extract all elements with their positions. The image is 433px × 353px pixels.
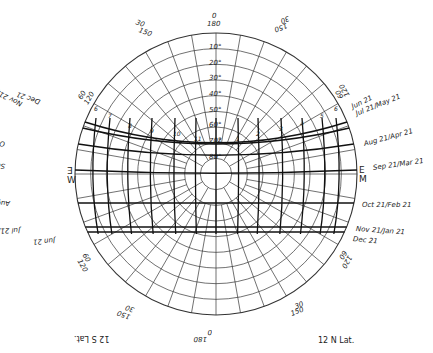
hour-label: 5 xyxy=(320,112,324,119)
altitude-label: 40° xyxy=(209,90,221,98)
hour-line xyxy=(93,118,98,234)
east-sub-label: M xyxy=(359,174,367,184)
hour-label: 1 xyxy=(236,135,240,142)
south-latitude-title: 12 S Lat. xyxy=(74,334,109,343)
hour-line xyxy=(150,118,153,234)
west-sub-label: E xyxy=(67,165,73,175)
hour-label: 2 xyxy=(256,130,260,137)
hour-label: 8 xyxy=(128,122,132,129)
hour-line xyxy=(334,118,339,234)
azimuth-line xyxy=(230,182,339,245)
hour-label: 4 xyxy=(300,120,304,127)
azimuth-line xyxy=(192,35,211,143)
azimuth-bottom-b: 180 xyxy=(194,335,207,343)
hour-label: 6 xyxy=(334,105,338,112)
sun-path-diagram xyxy=(0,0,433,353)
hour-line xyxy=(300,118,304,234)
hour-label: 6 xyxy=(94,105,98,112)
azimuth-line xyxy=(146,188,209,297)
altitude-label: 50° xyxy=(209,106,221,114)
azimuth-bottom-a: 0 xyxy=(208,328,212,336)
azimuth-line xyxy=(192,205,211,313)
azimuth-line xyxy=(224,188,287,297)
date-label-s-aug-apr: Aug 21/Apr 21 xyxy=(0,199,10,207)
hour-label: 3 xyxy=(279,125,283,132)
date-label-oct-feb: Oct 21/Feb 21 xyxy=(362,201,412,209)
azimuth-line xyxy=(94,182,203,245)
altitude-label: 30° xyxy=(209,74,221,82)
hour-line xyxy=(128,118,132,234)
hour-label: 11 xyxy=(194,135,202,142)
hour-label: 10 xyxy=(173,130,181,137)
hour-line xyxy=(280,118,283,234)
altitude-label: 60° xyxy=(209,121,221,129)
north-latitude-title: 12 N Lat. xyxy=(318,336,354,345)
azimuth-top-b: 180 xyxy=(207,20,220,28)
west-label: W xyxy=(67,175,76,185)
hour-label: 12 xyxy=(214,136,222,143)
altitude-label: 20° xyxy=(209,59,221,67)
azimuth-line xyxy=(168,203,206,306)
hour-label: 9 xyxy=(150,127,154,134)
azimuth-top-a: 0 xyxy=(212,12,216,20)
altitude-label: 10° xyxy=(209,43,221,51)
altitude-label: 80° xyxy=(209,153,221,161)
hour-label: 7 xyxy=(108,112,112,119)
